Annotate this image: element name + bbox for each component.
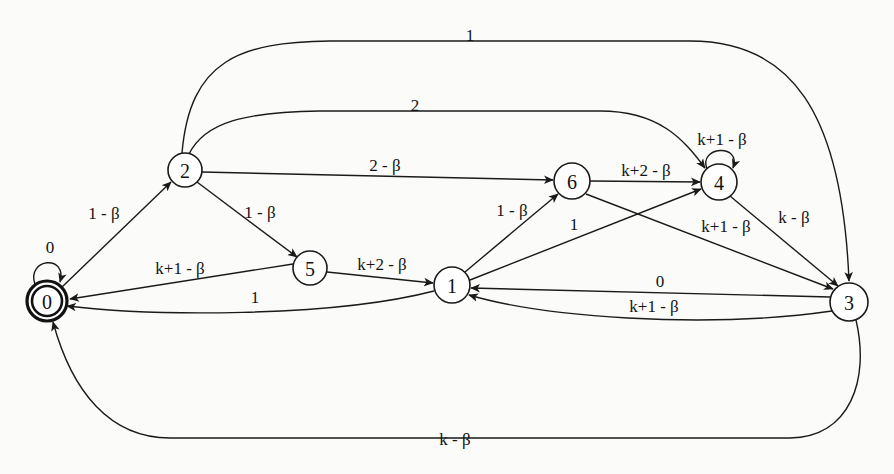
state-node-3[interactable]: 3 [830, 283, 868, 321]
state-node-2[interactable]: 2 [168, 153, 202, 187]
state-6-label: 6 [567, 171, 577, 193]
edge-label-3-1-k1: k+1 - β [629, 297, 678, 316]
state-4-label: 4 [714, 172, 724, 194]
automaton-canvas: 0 1 - β 1 - β 2 - β 1 2 k+1 - β k+2 - β … [0, 0, 894, 474]
edge-label-3-0: k - β [439, 430, 470, 449]
state-1-label: 1 [447, 275, 457, 297]
state-node-1[interactable]: 1 [434, 267, 470, 303]
edge-label-2-4: 2 [411, 96, 420, 115]
edge-label-6-4: k+2 - β [621, 161, 670, 180]
edge-label-3-1-zero: 0 [656, 272, 665, 291]
edge-label-1-4: 1 [570, 215, 579, 234]
edge-labels-layer: 0 1 - β 1 - β 2 - β 1 2 k+1 - β k+2 - β … [46, 26, 810, 449]
state-machine-diagram: 0 1 - β 1 - β 2 - β 1 2 k+1 - β k+2 - β … [0, 0, 894, 474]
edge-label-0-2: 1 - β [88, 204, 119, 223]
edge-2-to-4 [189, 111, 705, 168]
edge-5-to-1 [327, 272, 433, 283]
edge-label-0-0: 0 [46, 238, 55, 257]
edge-label-1-0: 1 [251, 288, 260, 307]
state-node-6[interactable]: 6 [554, 163, 590, 199]
edge-label-2-6: 2 - β [369, 156, 400, 175]
state-2-label: 2 [180, 160, 190, 182]
state-3-label: 3 [844, 292, 854, 314]
edge-label-5-0: k+1 - β [155, 259, 204, 278]
state-node-0[interactable]: 0 [27, 281, 67, 321]
state-0-label: 0 [42, 291, 52, 313]
edge-label-5-1: k+2 - β [357, 255, 406, 274]
edge-label-4-3: k - β [778, 208, 809, 227]
edge-label-1-6: 1 - β [496, 201, 527, 220]
edge-label-4-4: k+1 - β [697, 130, 746, 149]
edge-label-2-5: 1 - β [244, 203, 275, 222]
state-node-5[interactable]: 5 [293, 251, 327, 285]
edge-label-6-3: k+1 - β [701, 217, 750, 236]
edge-label-2-3: 1 [466, 26, 475, 45]
state-node-4[interactable]: 4 [701, 164, 737, 200]
edge-3-to-0 [53, 320, 860, 438]
edges-layer [34, 41, 861, 438]
edge-6-to-4 [590, 181, 700, 182]
state-5-label: 5 [305, 258, 315, 280]
